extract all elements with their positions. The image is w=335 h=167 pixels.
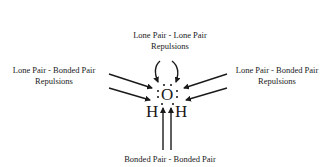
electron-dot [176,90,178,92]
arrow-left-upper [109,74,152,88]
atom-hydrogen-right: H [175,103,187,120]
electron-dot [176,96,178,98]
atom-oxygen: O [161,86,173,103]
atom-hydrogen-left: H [146,103,158,120]
electron-dot [163,84,165,86]
arrow-lone-lone-right [172,61,178,82]
electron-dot [170,84,172,86]
electron-dot [172,103,174,105]
repulsion-arrows [0,0,335,167]
electron-dot [157,96,159,98]
arrow-left-lower [109,88,150,100]
electron-dot [157,90,159,92]
arrow-lone-lone-left [155,61,160,82]
arrow-right-lower [186,88,227,100]
arrow-right-upper [184,74,227,88]
electron-dot [161,103,163,105]
